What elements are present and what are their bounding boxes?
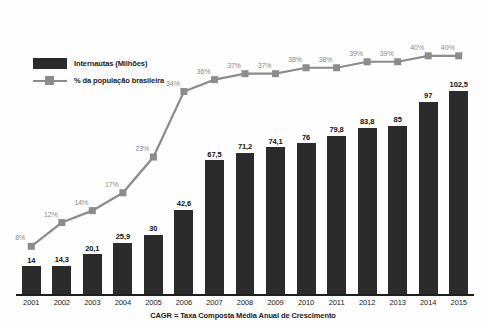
percent-value-label: 23% xyxy=(136,145,150,152)
bar-value-label: 67,5 xyxy=(207,150,221,159)
line-marker xyxy=(89,207,96,214)
line-marker xyxy=(119,189,126,196)
line-marker xyxy=(303,64,310,71)
percent-value-label: 38% xyxy=(319,56,333,63)
bar-value-label: 42,6 xyxy=(177,199,191,208)
bar-value-label: 30 xyxy=(149,224,157,233)
chart-footnote: CAGR = Taxa Composta Média Anual de Cres… xyxy=(0,311,486,320)
bar-value-label: 83,8 xyxy=(360,117,374,126)
x-tick-label: 2009 xyxy=(260,298,291,307)
x-tick-label: 2010 xyxy=(291,298,322,307)
bar-column: 71,2 xyxy=(236,142,255,294)
x-tick-label: 2002 xyxy=(47,298,78,307)
bar-column: 97 xyxy=(419,91,438,294)
percent-value-label: 14% xyxy=(74,199,88,206)
percent-value-label: 12% xyxy=(44,211,58,218)
bar xyxy=(297,143,316,294)
bar xyxy=(144,235,163,294)
bar xyxy=(174,210,193,294)
bar-column: 67,5 xyxy=(205,150,224,294)
bar-value-label: 74,1 xyxy=(268,137,282,146)
bar-value-label: 14,3 xyxy=(55,255,69,264)
x-tick-label: 2013 xyxy=(382,298,413,307)
bar xyxy=(266,147,285,294)
bar xyxy=(22,266,41,294)
line-marker xyxy=(394,58,401,65)
bar-value-label: 14 xyxy=(27,256,35,265)
bar-column: 76 xyxy=(297,133,316,294)
x-axis-line xyxy=(16,294,474,296)
line-marker xyxy=(211,76,218,83)
bar-column: 83,8 xyxy=(358,117,377,294)
bar xyxy=(205,160,224,294)
bar-column: 42,6 xyxy=(174,199,193,294)
x-tick-label: 2015 xyxy=(443,298,474,307)
line-marker xyxy=(455,52,462,59)
bar-column: 14 xyxy=(22,256,41,294)
percent-value-label: 39% xyxy=(349,50,363,57)
bar-column: 30 xyxy=(144,224,163,294)
percent-value-label: 37% xyxy=(227,62,241,69)
legend-item-percentual: % da população brasileira xyxy=(33,75,164,86)
bar-value-label: 20,1 xyxy=(85,244,99,253)
bar xyxy=(358,128,377,294)
x-axis-labels: 2001200220032004200520062007200820092010… xyxy=(16,298,474,312)
bar-value-label: 76 xyxy=(302,133,310,142)
percent-value-label: 34% xyxy=(166,80,180,87)
x-tick-label: 2012 xyxy=(352,298,383,307)
line-marker xyxy=(58,219,65,226)
x-tick-label: 2008 xyxy=(230,298,261,307)
line-marker xyxy=(242,70,249,77)
line-square-swatch-icon xyxy=(33,75,67,86)
bar-value-label: 97 xyxy=(424,91,432,100)
percent-value-label: 8% xyxy=(15,234,25,241)
bar xyxy=(327,136,346,294)
bar-column: 14,3 xyxy=(52,255,71,294)
x-tick-label: 2007 xyxy=(199,298,230,307)
bar xyxy=(83,254,102,294)
bar-column: 85 xyxy=(388,115,407,294)
x-tick-label: 2014 xyxy=(413,298,444,307)
plot-area: 1414,320,125,93042,667,571,274,17679,883… xyxy=(16,8,474,296)
line-marker xyxy=(180,88,187,95)
bar-column: 25,9 xyxy=(113,232,132,294)
legend-item-label: % da população brasileira xyxy=(74,76,164,85)
bar xyxy=(449,91,468,294)
percent-value-label: 40% xyxy=(441,44,455,51)
chart-legend: Internautas (Milhões) % da população bra… xyxy=(33,58,164,86)
bar xyxy=(113,243,132,294)
legend-item-internautas: Internautas (Milhões) xyxy=(33,58,164,69)
chart-container: 1414,320,125,93042,667,571,274,17679,883… xyxy=(0,0,486,330)
x-tick-label: 2004 xyxy=(108,298,139,307)
bar-column: 102,5 xyxy=(449,80,468,294)
percent-value-label: 39% xyxy=(380,50,394,57)
bar-value-label: 25,9 xyxy=(116,232,130,241)
bar xyxy=(236,153,255,294)
bar xyxy=(419,102,438,294)
bar xyxy=(388,126,407,294)
percent-value-label: 40% xyxy=(410,44,424,51)
legend-item-label: Internautas (Milhões) xyxy=(74,59,147,68)
line-marker xyxy=(28,243,35,250)
x-tick-label: 2001 xyxy=(16,298,47,307)
bar-column: 74,1 xyxy=(266,137,285,294)
percent-value-label: 38% xyxy=(288,56,302,63)
bar xyxy=(52,266,71,294)
bar-value-label: 85 xyxy=(394,115,402,124)
x-tick-label: 2011 xyxy=(321,298,352,307)
bar-swatch-icon xyxy=(33,58,67,69)
line-marker xyxy=(333,64,340,71)
line-marker xyxy=(272,70,279,77)
x-tick-label: 2003 xyxy=(77,298,108,307)
x-tick-label: 2006 xyxy=(169,298,200,307)
bar-column: 79,8 xyxy=(327,125,346,294)
percent-value-label: 37% xyxy=(258,62,272,69)
line-marker xyxy=(364,58,371,65)
line-marker xyxy=(425,52,432,59)
bar-value-label: 102,5 xyxy=(450,80,468,89)
bar-value-label: 79,8 xyxy=(329,125,343,134)
x-tick-label: 2005 xyxy=(138,298,169,307)
bar-value-label: 71,2 xyxy=(238,142,252,151)
percent-value-label: 36% xyxy=(197,68,211,75)
percent-value-label: 17% xyxy=(105,181,119,188)
